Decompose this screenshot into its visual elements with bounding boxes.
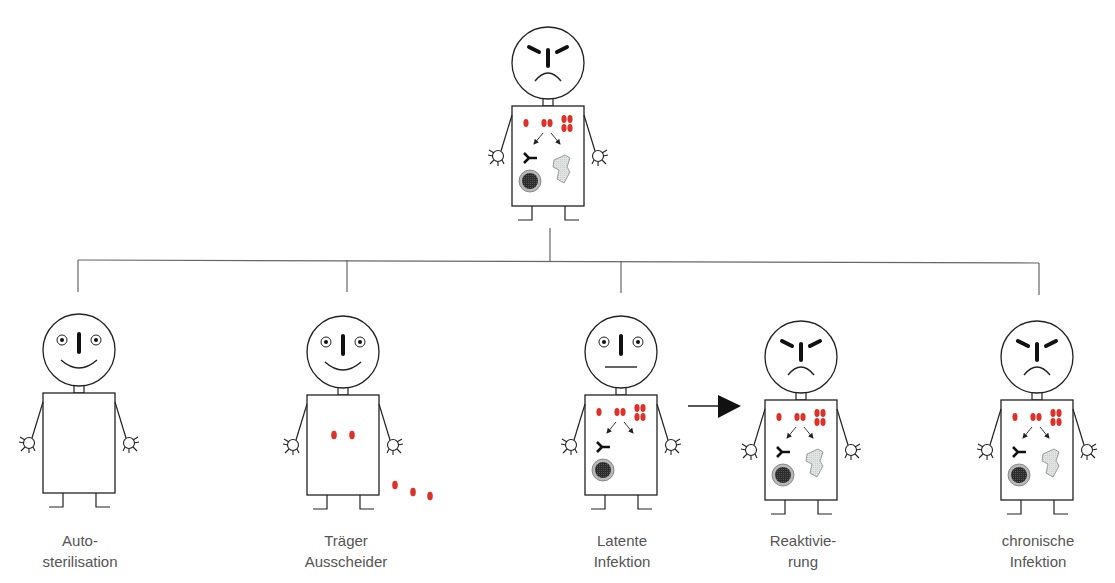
label-line-1: chronische xyxy=(958,530,1115,551)
body-outline xyxy=(283,387,403,509)
infected-cell-icon xyxy=(592,459,614,481)
body-outline xyxy=(977,392,1097,514)
label-line-1: Reaktivie- xyxy=(723,530,883,551)
label-latent-infection: Latente Infektion xyxy=(542,530,702,572)
body-outline xyxy=(19,385,139,507)
label-line-2: rung xyxy=(723,551,883,572)
infection-outcomes-diagram xyxy=(0,0,1115,583)
label-line-2: Ausscheider xyxy=(266,551,426,572)
angry-face-icon xyxy=(1001,321,1073,393)
figure-latent-infection xyxy=(561,316,681,509)
label-line-2: Infektion xyxy=(542,551,702,572)
body-outline xyxy=(561,387,681,509)
infected-cell-icon xyxy=(1008,464,1030,486)
label-autosterilisation: Auto- sterilisation xyxy=(0,530,160,572)
body-outline xyxy=(741,392,861,514)
figure-carrier-shedder xyxy=(283,316,433,509)
body-outline xyxy=(488,98,608,220)
figure-chronic-infection xyxy=(977,321,1097,514)
tree-connectors xyxy=(78,228,1039,295)
label-line-1: Auto- xyxy=(0,530,160,551)
neutral-face-icon xyxy=(585,316,657,388)
figure-reactivation xyxy=(741,321,861,514)
angry-face-icon xyxy=(765,321,837,393)
reactivation-arrow-icon xyxy=(688,395,741,418)
shed-pathogens-icon xyxy=(392,481,433,501)
happy-face-icon xyxy=(307,316,379,388)
root-figure-acute-infection xyxy=(488,27,608,220)
angry-face-icon xyxy=(512,27,584,99)
label-line-2: Infektion xyxy=(958,551,1115,572)
figure-autosterilisation xyxy=(19,314,139,507)
label-line-1: Latente xyxy=(542,530,702,551)
infected-cell-icon xyxy=(519,170,541,192)
label-line-2: sterilisation xyxy=(0,551,160,572)
label-carrier-shedder: Träger Ausscheider xyxy=(266,530,426,572)
label-line-1: Träger xyxy=(266,530,426,551)
infected-cell-icon xyxy=(772,464,794,486)
happy-face-icon xyxy=(43,314,115,386)
label-reactivation: Reaktivie- rung xyxy=(723,530,883,572)
label-chronic-infection: chronische Infektion xyxy=(958,530,1115,572)
